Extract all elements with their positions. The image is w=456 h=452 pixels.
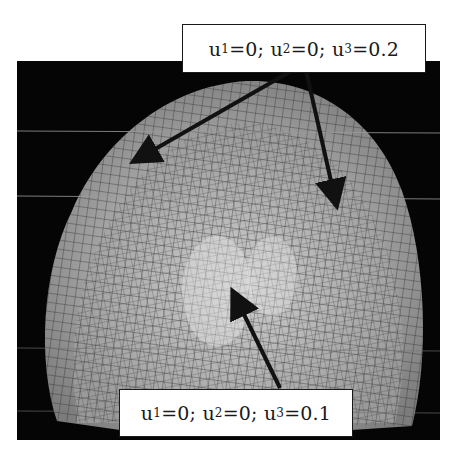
u2-label: u: [270, 38, 282, 60]
mesh-image-panel: [17, 61, 440, 440]
boundary-condition-label-top: u1=0; u2=0; u3=0.2: [182, 24, 426, 73]
u3-subscript: 3: [344, 42, 352, 56]
u1-label: u: [209, 38, 221, 60]
u3-label: u: [332, 38, 344, 60]
palate-mesh-illustration: [17, 61, 440, 440]
u1-subscript: 1: [153, 406, 161, 420]
u3-label: u: [264, 402, 276, 424]
u2-subscript: 2: [283, 42, 291, 56]
u1-value: =0;: [229, 38, 270, 60]
u2-subscript: 2: [215, 406, 223, 420]
u2-value: =0;: [223, 402, 264, 424]
u1-subscript: 1: [221, 42, 229, 56]
u3-value: =0.2: [352, 38, 399, 60]
u2-label: u: [202, 402, 214, 424]
u3-subscript: 3: [276, 406, 284, 420]
u1-label: u: [141, 402, 153, 424]
boundary-condition-label-bottom: u1=0; u2=0; u3=0.1: [119, 389, 353, 437]
u1-value: =0;: [161, 402, 202, 424]
u2-value: =0;: [291, 38, 332, 60]
u3-value: =0.1: [284, 402, 331, 424]
